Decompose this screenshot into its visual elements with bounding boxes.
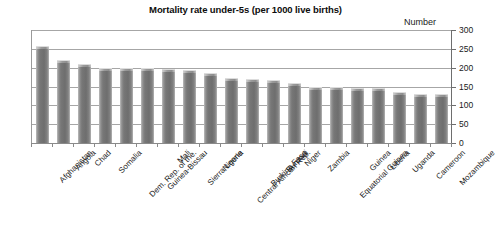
x-axis-category-label: Zambia xyxy=(326,149,351,174)
y-axis-tick-label: 0 xyxy=(459,139,464,148)
bar-slot xyxy=(204,30,217,143)
bar[interactable] xyxy=(141,68,154,143)
bar-slot xyxy=(351,30,364,143)
x-axis-category-label: Somalia xyxy=(117,149,143,175)
chart-title: Mortality rate under-5s (per 1000 live b… xyxy=(0,4,491,15)
bar-slot xyxy=(183,30,196,143)
bar-slot xyxy=(78,30,91,143)
x-axis-tick xyxy=(388,143,389,147)
y-axis-tick xyxy=(452,124,456,125)
bar[interactable] xyxy=(36,46,49,143)
bar[interactable] xyxy=(372,88,385,143)
bar[interactable] xyxy=(309,87,322,143)
bar[interactable] xyxy=(351,88,364,143)
y-axis-tick xyxy=(452,105,456,106)
bar[interactable] xyxy=(330,87,343,143)
x-axis-tick xyxy=(430,143,431,147)
y-axis-unit-label: Number xyxy=(404,17,436,27)
bar[interactable] xyxy=(78,64,91,143)
y-axis-tick xyxy=(452,143,456,144)
x-axis-category-label: Liberia xyxy=(389,149,412,172)
y-axis-tick-label: 250 xyxy=(459,45,473,54)
bar[interactable] xyxy=(435,94,448,143)
y-axis-tick xyxy=(452,30,456,31)
bar-slot xyxy=(414,30,427,143)
bar-slot xyxy=(435,30,448,143)
bar-slot xyxy=(162,30,175,143)
bars-layer xyxy=(32,30,452,143)
x-axis-tick xyxy=(136,143,137,147)
bar[interactable] xyxy=(204,73,217,143)
x-axis-tick xyxy=(31,143,32,147)
x-axis-tick xyxy=(346,143,347,147)
x-axis-tick xyxy=(73,143,74,147)
x-axis-tick xyxy=(220,143,221,147)
plot-area xyxy=(31,30,451,143)
bar[interactable] xyxy=(99,68,112,143)
x-axis-category-label: Uganda xyxy=(411,149,437,175)
bar[interactable] xyxy=(414,94,427,143)
y-axis: 300250200150100500 xyxy=(451,30,452,143)
y-axis-tick-label: 100 xyxy=(459,101,473,110)
bar[interactable] xyxy=(183,70,196,143)
bar-slot xyxy=(288,30,301,143)
x-axis-tick xyxy=(451,143,452,147)
y-axis-tick xyxy=(452,68,456,69)
bar[interactable] xyxy=(225,78,238,143)
bar-slot xyxy=(309,30,322,143)
bar[interactable] xyxy=(267,80,280,143)
x-axis-tick xyxy=(115,143,116,147)
bar-slot xyxy=(246,30,259,143)
bar-slot xyxy=(141,30,154,143)
y-axis-tick-label: 200 xyxy=(459,64,473,73)
bar-slot xyxy=(393,30,406,143)
gridline xyxy=(32,143,452,144)
y-axis-tick xyxy=(452,49,456,50)
x-axis-tick xyxy=(304,143,305,147)
bar[interactable] xyxy=(57,60,70,143)
x-axis-tick xyxy=(94,143,95,147)
bar-slot xyxy=(99,30,112,143)
y-axis-tick xyxy=(452,87,456,88)
bar[interactable] xyxy=(162,69,175,143)
x-axis-tick xyxy=(157,143,158,147)
bar-slot xyxy=(120,30,133,143)
x-axis-tick xyxy=(241,143,242,147)
bar-slot xyxy=(36,30,49,143)
y-axis-tick-label: 150 xyxy=(459,83,473,92)
x-axis-tick xyxy=(52,143,53,147)
x-axis-tick xyxy=(283,143,284,147)
x-axis-category-label: Chad xyxy=(93,149,113,169)
x-axis-tick xyxy=(325,143,326,147)
x-axis-tick xyxy=(178,143,179,147)
y-axis-tick-label: 50 xyxy=(459,120,468,129)
bar-slot xyxy=(267,30,280,143)
x-axis-category-label: Nigeria xyxy=(221,149,245,173)
bar[interactable] xyxy=(393,92,406,143)
y-axis-tick-label: 300 xyxy=(459,26,473,35)
bar-slot xyxy=(330,30,343,143)
bar[interactable] xyxy=(288,83,301,143)
bar-slot xyxy=(57,30,70,143)
bar[interactable] xyxy=(246,79,259,143)
x-axis-tick xyxy=(409,143,410,147)
x-axis-tick xyxy=(367,143,368,147)
x-axis-tick xyxy=(199,143,200,147)
bar-slot xyxy=(225,30,238,143)
bar-slot xyxy=(372,30,385,143)
x-axis-tick xyxy=(262,143,263,147)
bar[interactable] xyxy=(120,68,133,143)
